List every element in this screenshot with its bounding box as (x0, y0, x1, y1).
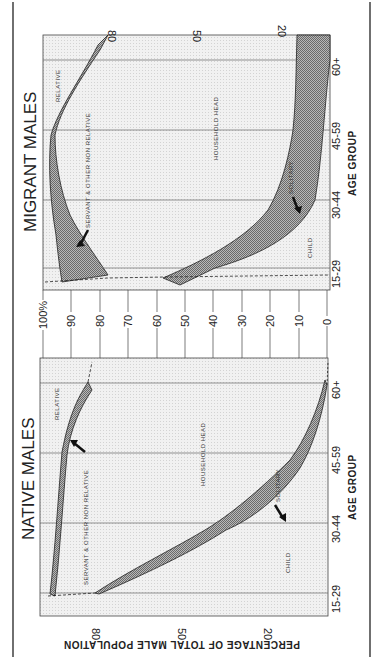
native-label-servant: SERVANT & OTHER NON RELATIVE (83, 470, 89, 585)
axis-tick-30: 30 (236, 315, 248, 327)
migrant-title: MIGRANT MALES (21, 92, 40, 232)
native-label-household-head: HOUSEHOLD HEAD (200, 422, 206, 486)
native-label-child: CHILD (285, 552, 291, 573)
native-label-relative: RELATIVE (54, 387, 60, 420)
migrant-age-30-44: 30-44 (330, 191, 342, 219)
axis-tick-100: 100% (37, 301, 49, 329)
migrant-age-15-29: 15-29 (330, 260, 342, 288)
migrant-panel: 80 50 20 MIGRANT MALES RELATIVE SERVANT … (21, 25, 358, 290)
migrant-tick-80: 80 (106, 30, 118, 42)
axis-tick-10: 10 (293, 315, 305, 327)
axis-tick-0: 0 (321, 319, 333, 325)
axis-tick-70: 70 (122, 315, 134, 327)
axis-tick-90: 90 (65, 315, 77, 327)
native-age-30-44: 30-44 (330, 515, 342, 543)
native-tick-20: 20 (262, 628, 274, 640)
axis-tick-40: 40 (207, 315, 219, 327)
migrant-label-child: CHILD (307, 237, 313, 258)
native-tick-80: 80 (90, 628, 102, 640)
migrant-age-axis-title: AGE GROUP (347, 130, 358, 196)
migrant-age-45-59: 45-59 (330, 122, 342, 150)
migrant-label-relative: RELATIVE (55, 69, 61, 102)
native-age-45-59: 45-59 (330, 446, 342, 474)
axis-tick-20: 20 (264, 315, 276, 327)
axis-tick-60: 60 (151, 315, 163, 327)
migrant-label-solitary: SOLITARY (288, 161, 294, 194)
native-age-15-29: 15-29 (330, 585, 342, 613)
native-age-60plus: 60+ (330, 380, 342, 399)
migrant-age-60plus: 60+ (330, 57, 342, 76)
native-label-solitary: SOLITARY (275, 469, 281, 502)
migrant-tick-50: 50 (191, 30, 203, 42)
native-tick-50: 50 (176, 628, 188, 640)
native-title: NATIVE MALES (19, 418, 38, 541)
native-age-axis-title: AGE GROUP (347, 454, 358, 520)
migrant-label-household-head: HOUSEHOLD HEAD (213, 96, 219, 160)
native-panel: 80 50 20 PERCENTAGE OF TOTAL MALE POPULA… (19, 358, 358, 650)
percent-axis-title: PERCENTAGE OF TOTAL MALE POPULATION (63, 639, 300, 650)
migrant-tick-20: 20 (276, 25, 288, 37)
figure: 80 50 20 MIGRANT MALES RELATIVE SERVANT … (0, 0, 375, 659)
axis-tick-50: 50 (179, 315, 191, 327)
migrant-label-servant: SERVANT & OTHER NON RELATIVE (85, 113, 91, 228)
shared-percent-axis: 100% 90 80 70 60 50 40 30 20 10 0 (36, 290, 333, 358)
axis-tick-80: 80 (94, 315, 106, 327)
